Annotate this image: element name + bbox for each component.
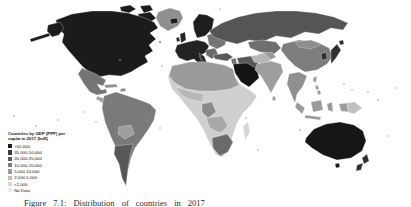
legend-label: 10,000-20,000 xyxy=(14,163,42,168)
region-kazakhstan xyxy=(248,40,281,54)
region-new-guinea-east xyxy=(347,102,362,114)
legend-label: 5,000-10,000 xyxy=(14,169,39,174)
region-philippines xyxy=(313,76,321,95)
region-new-zealand xyxy=(356,154,369,171)
legend-label: 2,000-5,000 xyxy=(14,175,37,180)
legend-swatch xyxy=(8,188,12,192)
region-south-america xyxy=(102,92,156,183)
legend-title-line2: capita in 2017 (Int$) xyxy=(8,136,66,141)
legend-row: <2,000 xyxy=(8,182,66,187)
region-madagascar xyxy=(243,122,250,140)
region-australia xyxy=(305,122,366,168)
legend-items: >50,000 35,000-50,000 20,000-35,000 10,0… xyxy=(8,144,66,193)
region-western-europe xyxy=(175,40,209,65)
legend-title: Countries by GDP (PPP) per capita in 201… xyxy=(8,131,66,142)
region-uk-ireland xyxy=(176,32,186,43)
legend-swatch xyxy=(8,176,12,180)
legend-swatch xyxy=(8,144,12,148)
legend-row: 10,000-20,000 xyxy=(8,163,66,168)
region-japan xyxy=(331,40,344,64)
legend-label: <2,000 xyxy=(14,182,27,187)
region-canada-usa xyxy=(56,11,158,77)
legend-swatch xyxy=(8,150,12,154)
region-argentina-chile xyxy=(114,144,133,186)
legend-label: 20,000-35,000 xyxy=(14,156,42,161)
legend-swatch xyxy=(8,163,12,167)
world-map-figure: Countries by GDP (PPP) per capita in 201… xyxy=(0,0,411,207)
map-legend: Countries by GDP (PPP) per capita in 201… xyxy=(8,131,66,194)
region-alaska xyxy=(30,22,64,42)
region-russia xyxy=(209,11,348,44)
region-indonesia xyxy=(295,100,333,120)
legend-row: >50,000 xyxy=(8,144,66,149)
legend-row: 5,000-10,000 xyxy=(8,169,66,174)
legend-row: 2,000-5,000 xyxy=(8,175,66,180)
region-caribbean xyxy=(104,84,126,92)
region-india xyxy=(255,61,283,101)
figure-caption: Figure 7.1: Distribution of countries in… xyxy=(24,198,404,207)
legend-row: 20,000-35,000 xyxy=(8,156,66,161)
legend-row: 35,000-50,000 xyxy=(8,150,66,155)
region-indochina xyxy=(287,72,307,103)
legend-label: No Data xyxy=(14,188,30,193)
region-new-guinea-west xyxy=(339,103,348,112)
legend-swatch xyxy=(8,182,12,186)
region-greenland xyxy=(156,8,183,31)
legend-swatch xyxy=(8,157,12,161)
legend-swatch xyxy=(8,169,12,173)
legend-row: No Data xyxy=(8,188,66,193)
legend-label: 35,000-50,000 xyxy=(14,150,42,155)
legend-label: >50,000 xyxy=(14,144,30,149)
region-iceland xyxy=(170,18,178,24)
